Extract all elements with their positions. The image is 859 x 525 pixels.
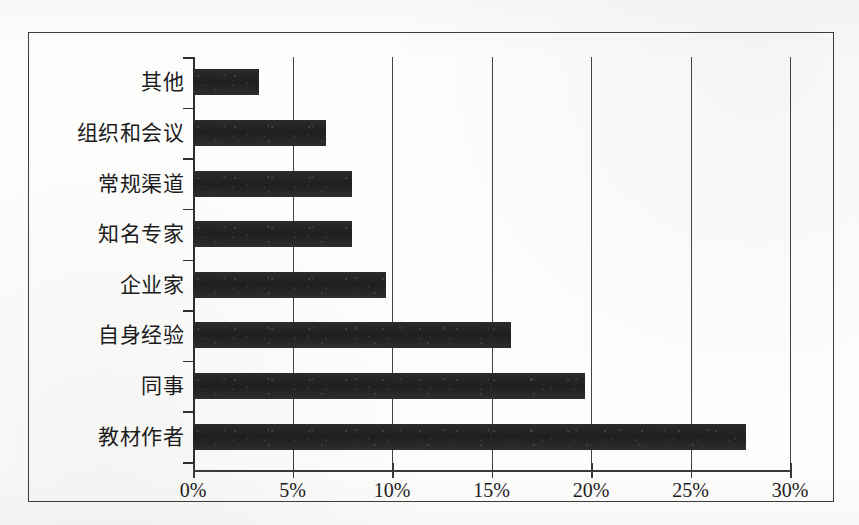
value-axis-label: 30% — [755, 479, 825, 501]
value-tick-10% — [392, 463, 394, 478]
bar — [193, 171, 352, 197]
category-label: 知名专家 — [18, 221, 193, 247]
value-tick-30% — [790, 463, 792, 478]
gridline-30% — [790, 57, 791, 470]
plot-area — [193, 57, 790, 462]
value-tick-0% — [193, 463, 195, 478]
value-axis-label: 25% — [656, 479, 726, 501]
value-tick-15% — [492, 463, 494, 478]
value-axis-label: 10% — [357, 479, 427, 501]
bar — [193, 322, 511, 348]
category-label: 自身经验 — [18, 322, 193, 348]
value-tick-20% — [591, 463, 593, 478]
category-label: 企业家 — [18, 272, 193, 298]
bar — [193, 424, 746, 450]
category-label: 教材作者 — [18, 424, 193, 450]
value-axis-label: 0% — [158, 479, 228, 501]
category-label: 常规渠道 — [18, 171, 193, 197]
value-axis-label: 20% — [556, 479, 626, 501]
scanned-page: 其他组织和会议常规渠道知名专家企业家自身经验同事教材作者 0%5%10%15%2… — [0, 0, 859, 525]
value-axis-label: 5% — [258, 479, 328, 501]
value-axis-label: 15% — [457, 479, 527, 501]
category-labels-group: 其他组织和会议常规渠道知名专家企业家自身经验同事教材作者 — [8, 57, 193, 463]
category-label: 其他 — [18, 69, 193, 95]
bar — [193, 221, 352, 247]
value-tick-5% — [293, 463, 295, 478]
category-label: 同事 — [18, 373, 193, 399]
bar — [193, 373, 585, 399]
bar — [193, 69, 259, 95]
bar — [193, 272, 386, 298]
category-label: 组织和会议 — [18, 120, 193, 146]
value-tick-25% — [691, 463, 693, 478]
bar — [193, 120, 326, 146]
